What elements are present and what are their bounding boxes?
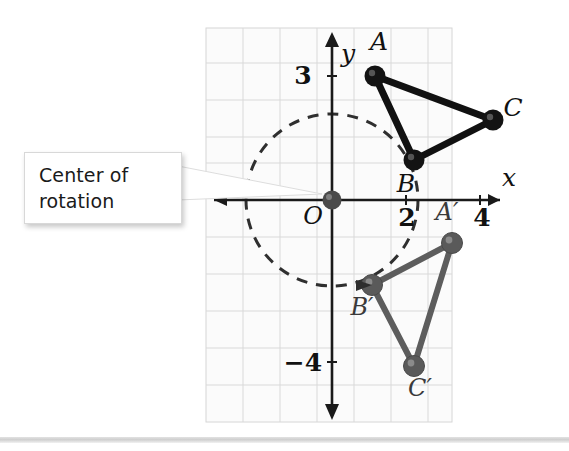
y-tick-label-neg4: −4: [284, 348, 322, 377]
vertex-B-highlight: [408, 154, 414, 160]
center-of-rotation-point: [323, 191, 342, 210]
label-A-prime: A′: [434, 198, 459, 226]
vertex-C-prime-highlight: [408, 360, 415, 367]
coordinate-plane-figure: 3 −4 2 4 O y x A B C A′ B′ C′: [0, 0, 569, 451]
center-of-rotation-callout: Center of rotation: [24, 152, 182, 224]
label-C: C: [503, 93, 522, 122]
y-axis-label: y: [340, 39, 356, 68]
figure-stage: 3 −4 2 4 O y x A B C A′ B′ C′ Center of …: [0, 0, 569, 451]
y-tick-label-3: 3: [294, 61, 311, 90]
vertex-A: [365, 66, 386, 87]
callout-line-2: rotation: [39, 188, 181, 214]
label-B: B: [396, 169, 415, 198]
vertex-A-highlight: [369, 70, 375, 76]
vertex-A-prime-highlight: [446, 237, 453, 244]
bottom-divider: [0, 437, 569, 443]
x-axis-label: x: [502, 163, 516, 192]
label-A: A: [368, 27, 388, 56]
center-of-rotation-highlight: [326, 194, 332, 200]
origin-label: O: [303, 202, 323, 230]
vertex-A-prime: [442, 233, 463, 254]
label-B-prime: B′: [349, 293, 374, 321]
x-tick-label-4: 4: [473, 203, 490, 232]
x-tick-label-2: 2: [398, 203, 415, 232]
vertex-C: [483, 110, 504, 131]
vertex-B: [404, 150, 425, 171]
callout-line-1: Center of: [39, 162, 181, 188]
vertex-C-highlight: [487, 114, 493, 120]
label-C-prime: C′: [408, 374, 432, 402]
